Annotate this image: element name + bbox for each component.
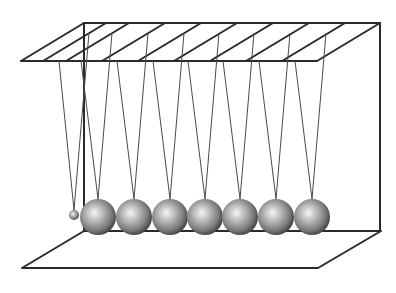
base-plate — [22, 231, 381, 268]
base-outline — [22, 231, 381, 268]
string — [312, 33, 326, 199]
pendulum-ball — [187, 199, 223, 235]
pendulum-ball — [116, 199, 152, 235]
top-crossbar — [317, 23, 380, 61]
string — [134, 33, 148, 199]
top-frame — [21, 23, 380, 61]
small-ball — [69, 210, 79, 220]
top-crossbar — [246, 23, 309, 61]
string — [259, 61, 276, 199]
string — [205, 33, 219, 199]
pendulum-ball — [258, 199, 294, 235]
pendulum-ball — [294, 199, 330, 235]
string — [59, 61, 74, 210]
string — [188, 61, 205, 199]
top-crossbar — [282, 23, 345, 61]
string — [295, 61, 312, 199]
newtons-cradle-diagram — [0, 0, 396, 293]
string — [117, 61, 134, 199]
string — [240, 33, 254, 199]
pendulum-balls — [69, 199, 330, 235]
string — [98, 33, 112, 199]
pendulum-ball — [80, 199, 116, 235]
pendulum-ball — [152, 199, 188, 235]
frame-posts — [84, 23, 380, 231]
string — [223, 61, 240, 199]
string — [276, 33, 290, 199]
pendulum-ball — [222, 199, 258, 235]
string — [153, 61, 170, 199]
string — [170, 33, 184, 199]
top-crossbar — [210, 23, 273, 61]
cradle-illustration — [0, 0, 396, 293]
string — [74, 33, 89, 210]
